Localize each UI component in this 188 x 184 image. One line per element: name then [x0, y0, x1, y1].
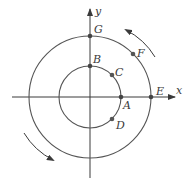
rotation-diagram: x y A B C D E F G	[0, 0, 188, 184]
point-f	[131, 52, 136, 57]
label-g: G	[94, 23, 103, 36]
x-axis-label: x	[176, 84, 183, 97]
label-a: A	[122, 99, 131, 112]
label-d: D	[115, 119, 125, 132]
point-c	[110, 73, 115, 78]
point-b	[88, 64, 93, 69]
point-e	[149, 95, 154, 100]
y-axis-label: y	[94, 5, 102, 18]
label-b: B	[92, 53, 101, 66]
label-c: C	[115, 66, 124, 79]
label-f: F	[136, 47, 145, 60]
point-d	[110, 117, 115, 122]
counterclockwise-arrow-lower-left	[24, 133, 53, 160]
label-e: E	[155, 85, 164, 98]
point-g	[88, 34, 93, 39]
